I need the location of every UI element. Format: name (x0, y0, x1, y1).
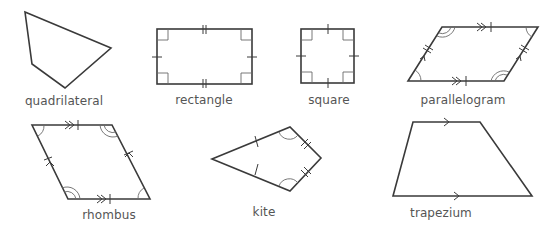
right-angle-marks (301, 29, 354, 83)
kite-figure: kite (212, 127, 321, 219)
rectangle-label: rectangle (175, 93, 233, 107)
square-figure: square (296, 24, 359, 107)
quadrilateral-label: quadrilateral (25, 94, 103, 108)
parallelogram-shape (408, 27, 538, 81)
parallel-arrow-marks (420, 22, 529, 86)
trapezium-label: trapezium (410, 206, 472, 220)
rhombus-figure: rhombus (32, 120, 150, 222)
trapezium-figure: trapezium (393, 118, 532, 220)
rectangle-figure: rectangle (152, 25, 257, 107)
kite-label: kite (253, 205, 276, 219)
square-label: square (308, 93, 349, 107)
equal-side-ticks (296, 24, 359, 88)
parallel-arrow-marks (444, 118, 459, 200)
angle-arcs (38, 125, 144, 199)
parallelogram-figure: parallelogram (408, 22, 538, 107)
quadrilateral-figure: quadrilateral (25, 12, 111, 108)
rectangle-shape (157, 29, 252, 84)
trapezium-shape (393, 122, 532, 196)
angle-arcs (415, 27, 532, 81)
right-angle-marks (157, 29, 252, 84)
quadrilaterals-diagram: quadrilateral rectangle (0, 0, 558, 226)
kite-shape (212, 127, 321, 191)
rhombus-label: rhombus (82, 208, 136, 222)
parallelogram-label: parallelogram (421, 93, 506, 107)
angle-arcs (279, 132, 298, 186)
equal-side-ticks (255, 136, 311, 177)
quadrilateral-shape (25, 12, 111, 88)
parallel-arrow-marks (44, 120, 133, 204)
square-shape (301, 29, 354, 83)
